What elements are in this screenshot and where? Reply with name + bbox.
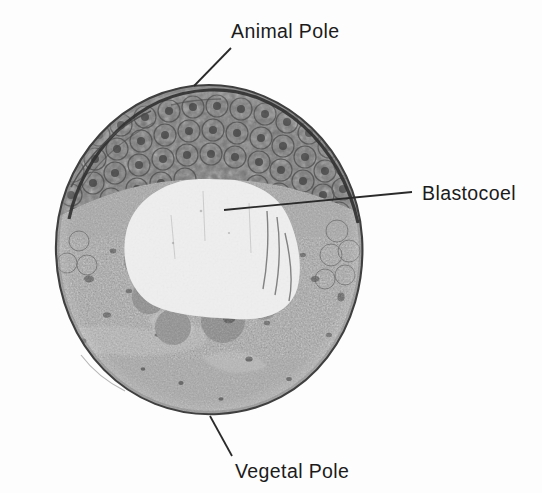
- blastula-section-graphic: [53, 83, 365, 417]
- label-blastocoel: Blastocoel: [422, 184, 516, 204]
- micrograph-figure: Animal Pole Blastocoel Vegetal Pole: [0, 0, 542, 493]
- animal-pole-leader-line: [194, 48, 231, 86]
- label-animal-pole: Animal Pole: [231, 22, 339, 42]
- blastula-specimen-image: [53, 83, 365, 417]
- label-vegetal-pole: Vegetal Pole: [235, 462, 349, 482]
- vegetal-pole-leader-line: [210, 416, 232, 456]
